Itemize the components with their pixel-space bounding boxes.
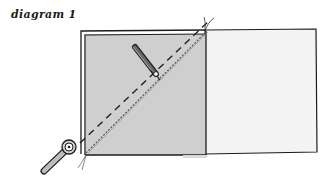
white-square bbox=[205, 29, 317, 154]
gray-square bbox=[81, 30, 207, 158]
rotary-cutter-icon bbox=[44, 140, 76, 171]
diagram-canvas bbox=[0, 0, 335, 185]
